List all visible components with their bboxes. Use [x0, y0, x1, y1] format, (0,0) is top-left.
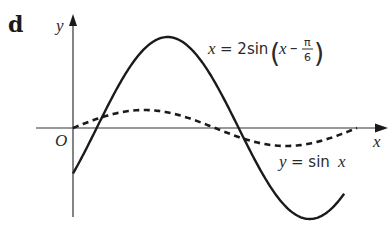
- eq1-minus: –: [290, 39, 298, 57]
- x-axis-label: x: [372, 132, 381, 151]
- eq2-y: y: [277, 152, 287, 171]
- eq1-frac-den: 6: [304, 51, 311, 64]
- eq1-right-paren: ): [314, 38, 324, 68]
- eq1-frac-num: π: [304, 36, 311, 49]
- solid-curve-equation-label: x = 2sin ( x – π 6 ): [207, 36, 324, 68]
- eq1-prefix: = 2sin: [220, 40, 268, 58]
- eq1-y: x: [207, 39, 216, 58]
- origin-label: O: [55, 131, 67, 150]
- eq1-x: x: [278, 39, 287, 58]
- y-axis-arrow-icon: [69, 14, 77, 26]
- sine-graph: d y x O x = 2sin ( x – π 6 ) y = sin x: [0, 0, 391, 226]
- dashed-curve-equation-label: y = sin x: [277, 152, 346, 171]
- eq2-x: x: [337, 152, 346, 171]
- part-label: d: [8, 11, 23, 37]
- y-axis-label: y: [54, 16, 64, 35]
- eq2-prefix: = sin: [291, 153, 330, 171]
